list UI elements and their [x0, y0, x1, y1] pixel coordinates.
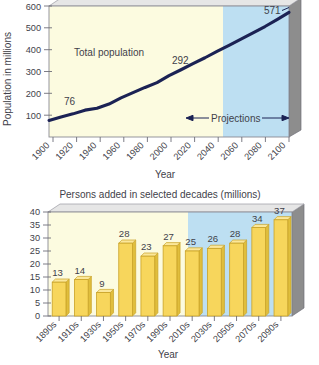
bottom-xtick-1930s: 1930s: [78, 319, 103, 344]
bar-side: [155, 253, 158, 316]
bar: [207, 248, 221, 316]
bottom-xtick-2070s: 2070s: [233, 319, 258, 344]
bottom-ytick-20: 20: [30, 259, 40, 269]
top-xtick-1960: 1960: [101, 140, 123, 162]
annotation-76: 76: [64, 96, 76, 107]
bar: [274, 220, 288, 316]
top-xtick-2040: 2040: [195, 140, 217, 162]
region-historical: [49, 6, 223, 137]
bottom-ytick-40: 40: [30, 207, 40, 217]
bar-value-1890s: 13: [52, 267, 63, 278]
bar-value-1930s: 9: [99, 278, 104, 289]
persons-added-chart: Persons added in selected decades (milli…: [0, 186, 319, 365]
bottom-chart-title: Persons added in selected decades (milli…: [59, 189, 260, 200]
top-y-axis-title: Population in millions: [2, 32, 13, 126]
bottom-xtick-1970s: 1970s: [122, 319, 147, 344]
bar-value-1950s: 28: [119, 228, 130, 239]
bottom-ytick-35: 35: [30, 220, 40, 230]
bottom-ytick-0: 0: [35, 311, 40, 321]
top-xtick-1980: 1980: [124, 140, 146, 162]
bar-side: [221, 245, 224, 316]
annotation-571: 571: [264, 5, 281, 16]
top-xtick-2080: 2080: [242, 140, 264, 162]
annotation-292: 292: [172, 55, 189, 66]
top-ytick-600: 600: [26, 2, 41, 12]
bottom-ytick-10: 10: [30, 285, 40, 295]
top-ytick-500: 500: [26, 23, 41, 33]
bar-side: [199, 248, 202, 316]
bar-top: [74, 276, 91, 279]
bar: [52, 282, 66, 316]
bottom-x-ticks: [59, 316, 281, 321]
bottom-xtick-1910s: 1910s: [56, 319, 81, 344]
bottom-xtick-1990s: 1990s: [145, 319, 170, 344]
bar-top: [207, 245, 224, 248]
bar-value-2070s: 34: [252, 213, 263, 224]
top-ytick-400: 400: [26, 45, 41, 55]
top-x-tick-labels: 1900 1920 1940 1960 1980 2000 2020 2040 …: [30, 140, 288, 162]
bottom-y-tick-labels: 0510152025303540: [30, 207, 40, 321]
bar-value-2090s: 37: [274, 205, 285, 216]
bar: [252, 228, 266, 316]
bar-top: [52, 279, 69, 282]
bottom-ytick-25: 25: [30, 246, 40, 256]
bar-value-1910s: 14: [74, 265, 85, 276]
label-total-population: Total population: [74, 47, 144, 58]
chart-right-wall: [289, 0, 301, 137]
bottom-ytick-30: 30: [30, 233, 40, 243]
bottom-xtick-2090s: 2090s: [256, 319, 281, 344]
top-xtick-2020: 2020: [171, 140, 193, 162]
bar-value-2030s: 26: [208, 233, 219, 244]
bar-value-2050s: 28: [230, 228, 241, 239]
bottom-xtick-1950s: 1950s: [100, 319, 125, 344]
bottom-chart-top-wall: [48, 204, 304, 212]
bar-top: [185, 248, 202, 251]
bar: [163, 246, 177, 316]
top-xtick-2060: 2060: [219, 140, 241, 162]
bar-value-2010s: 25: [185, 236, 196, 247]
bar-top: [274, 217, 291, 220]
bottom-xtick-2050s: 2050s: [211, 319, 236, 344]
bar-side: [133, 240, 136, 316]
bar-side: [110, 289, 113, 316]
bottom-chart-right-wall: [292, 204, 304, 316]
population-figure: Population in millions 600 500 400 300 2…: [0, 0, 319, 365]
bar: [74, 280, 88, 316]
top-xtick-1900: 1900: [30, 140, 52, 162]
bar-top: [252, 224, 269, 227]
bar-top: [163, 243, 180, 246]
top-xtick-2100: 2100: [266, 140, 288, 162]
total-population-chart: Population in millions 600 500 400 300 2…: [0, 0, 319, 184]
bottom-x-axis-title: Year: [158, 349, 179, 360]
bar: [185, 251, 199, 316]
bar: [230, 243, 244, 316]
bar-side: [266, 224, 269, 316]
bar: [97, 293, 111, 316]
bar-side: [66, 279, 69, 316]
bar-top: [141, 253, 158, 256]
bar: [119, 243, 133, 316]
top-ytick-200: 200: [26, 89, 41, 99]
bar-top: [97, 289, 114, 292]
bar-top: [230, 240, 247, 243]
bar-side: [88, 276, 91, 316]
bar: [141, 256, 155, 316]
bottom-x-tick-labels: 1890s1910s1930s1950s1970s1990s2010s2030s…: [34, 319, 281, 344]
bar-side: [243, 240, 246, 316]
bottom-xtick-2010s: 2010s: [167, 319, 192, 344]
top-xtick-1920: 1920: [53, 140, 75, 162]
bottom-xtick-1890s: 1890s: [34, 319, 59, 344]
bar-side: [177, 243, 180, 316]
top-x-ticks: [53, 137, 289, 142]
label-projections: Projections: [211, 113, 260, 124]
bar-value-1970s: 23: [141, 241, 152, 252]
bar-value-1990s: 27: [163, 231, 174, 242]
top-xtick-1940: 1940: [77, 140, 99, 162]
bottom-xtick-2030s: 2030s: [189, 319, 214, 344]
top-xtick-2000: 2000: [148, 140, 170, 162]
top-ytick-100: 100: [26, 111, 41, 121]
top-ytick-300: 300: [26, 67, 41, 77]
bar-side: [288, 217, 291, 316]
bottom-ytick-5: 5: [35, 298, 40, 308]
bar-top: [119, 240, 136, 243]
